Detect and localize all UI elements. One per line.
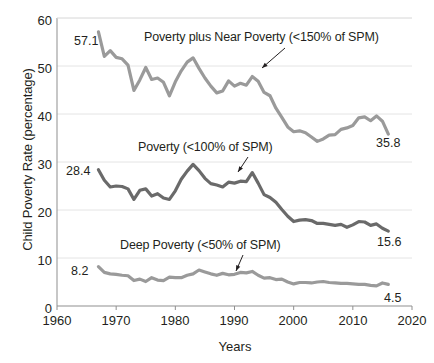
x-tick-1980: 1980 xyxy=(152,313,198,328)
series-line-2 xyxy=(98,267,388,286)
x-tick-1990: 1990 xyxy=(211,313,257,328)
series-label-poverty-plus-near-poverty: Poverty plus Near Poverty (<150% of SPM) xyxy=(144,30,379,44)
series-line-1 xyxy=(98,164,388,231)
value-label-top-start: 57.1 xyxy=(74,34,98,48)
x-tick-1960: 1960 xyxy=(34,313,80,328)
series-label-deep-poverty: Deep Poverty (<50% of SPM) xyxy=(120,238,280,252)
annotation-arrow-0 xyxy=(262,48,285,68)
value-label-top-end: 35.8 xyxy=(376,136,400,150)
annotation-arrow-2 xyxy=(236,255,243,271)
x-tick-2020: 2020 xyxy=(389,313,434,328)
annotation-arrow-1 xyxy=(238,157,248,172)
value-label-bottom-end: 4.5 xyxy=(384,291,401,305)
x-axis-ticks xyxy=(57,306,412,310)
value-label-mid-end: 15.6 xyxy=(377,235,401,249)
value-label-bottom-start: 8.2 xyxy=(71,264,88,278)
child-poverty-line-chart: Child Poverty Rate (percentage) 60 50 40… xyxy=(0,0,434,363)
plot-area xyxy=(0,0,434,363)
x-axis-title: Years xyxy=(57,339,413,354)
x-tick-1970: 1970 xyxy=(93,313,139,328)
x-tick-2000: 2000 xyxy=(270,313,316,328)
series-line-0 xyxy=(98,32,388,141)
value-label-mid-start: 28.4 xyxy=(66,164,90,178)
series-label-poverty: Poverty (<100% of SPM) xyxy=(138,140,273,154)
x-tick-2010: 2010 xyxy=(330,313,376,328)
